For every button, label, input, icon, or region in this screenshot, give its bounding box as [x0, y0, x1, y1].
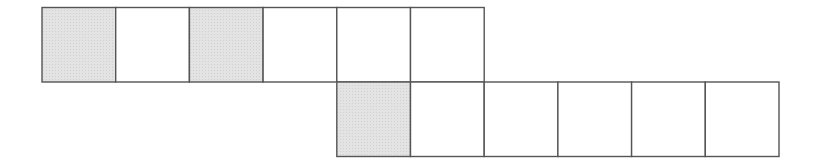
- empty-cell: [632, 82, 706, 157]
- empty-cell: [484, 82, 558, 157]
- shaded-cell: [189, 8, 263, 83]
- square-grid-diagram: [0, 0, 815, 161]
- grid-row-1: [42, 8, 484, 83]
- shaded-cell: [42, 8, 116, 83]
- empty-cell: [116, 8, 190, 83]
- grid-row-2: [337, 82, 779, 157]
- shaded-cell: [337, 82, 411, 157]
- empty-cell: [263, 8, 337, 83]
- empty-cell: [558, 82, 632, 157]
- empty-cell: [337, 8, 411, 83]
- empty-cell: [705, 82, 779, 157]
- empty-cell: [411, 82, 485, 157]
- empty-cell: [411, 8, 485, 83]
